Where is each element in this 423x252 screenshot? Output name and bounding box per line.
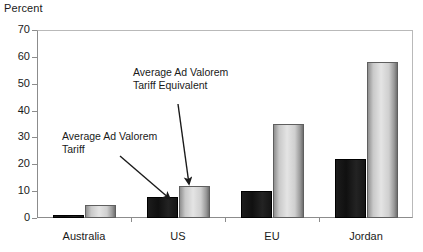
y-axis-tick-mark xyxy=(32,30,37,31)
bar-australia-series-1 xyxy=(53,215,84,218)
annotation-average-ad-valorem-tariff: Average Ad Valorem Tariff xyxy=(62,130,157,155)
annotation-average-ad-valorem-tariff-equivalent: Average Ad Valorem Tariff Equivalent xyxy=(133,66,228,91)
x-axis-tick-mark xyxy=(319,218,320,222)
y-axis-tick-label: 60 xyxy=(4,51,30,62)
bar-us-series-2 xyxy=(179,186,210,218)
x-axis-category-label: Jordan xyxy=(319,230,413,243)
y-axis-tick-mark xyxy=(32,57,37,58)
x-axis-tick-mark xyxy=(225,218,226,222)
bar-australia-series-2 xyxy=(85,205,116,218)
y-axis-tick-mark xyxy=(32,84,37,85)
y-axis-tick-label: 40 xyxy=(4,105,30,116)
y-axis-title: Percent xyxy=(4,2,43,15)
bar-chart: Percent 706050403020100 AustraliaUSEUJor… xyxy=(0,0,423,252)
y-axis-tick-mark xyxy=(32,191,37,192)
y-axis-tick-label: 70 xyxy=(4,24,30,35)
y-axis-tick-label: 0 xyxy=(4,212,30,223)
y-axis-tick-mark xyxy=(32,218,37,219)
y-axis-tick-label: 10 xyxy=(4,185,30,196)
y-axis-tick-label: 20 xyxy=(4,158,30,169)
bar-eu-series-1 xyxy=(241,191,272,218)
x-axis-tick-mark xyxy=(131,218,132,222)
bar-eu-series-2 xyxy=(273,124,304,218)
y-axis-tick-mark xyxy=(32,137,37,138)
bar-jordan-series-2 xyxy=(367,62,398,218)
x-axis-category-label: Australia xyxy=(37,230,131,243)
x-axis-category-label: US xyxy=(131,230,225,243)
bar-jordan-series-1 xyxy=(335,159,366,218)
x-axis-category-label: EU xyxy=(225,230,319,243)
y-axis-tick-label: 50 xyxy=(4,78,30,89)
y-axis-tick-label: 30 xyxy=(4,131,30,142)
y-axis-tick-mark xyxy=(32,111,37,112)
y-axis-tick-mark xyxy=(32,164,37,165)
bar-us-series-1 xyxy=(147,197,178,218)
